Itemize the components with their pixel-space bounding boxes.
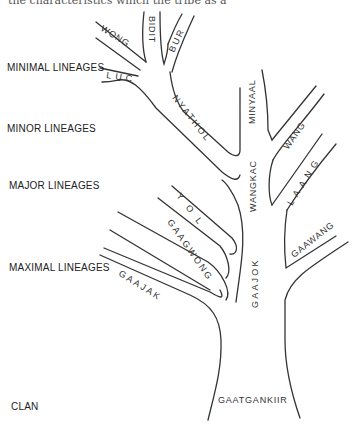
level-label-clan: CLAN — [11, 401, 38, 412]
bidit-right-line — [160, 12, 168, 64]
level-label-maximal: MAXIMAL LINEAGES — [9, 262, 110, 273]
trunk-right-line — [285, 242, 348, 418]
level-label-major: MAJOR LINEAGES — [9, 180, 100, 191]
branch-label-laang: LAANG — [285, 155, 323, 207]
bidit-left-line — [143, 12, 146, 62]
branch-label-wang: WANG — [281, 120, 307, 151]
trunk-left-line — [100, 255, 221, 420]
wangkac-right-line — [269, 160, 273, 205]
branch-label-gaajok: GAAJOK — [250, 258, 260, 308]
level-label-minor: MINOR LINEAGES — [7, 123, 96, 134]
minyaal-right-line — [262, 70, 272, 140]
branch-label-gaatgankiir: GAATGANKIIR — [218, 395, 288, 405]
branch-label-nyathol: NYATHOL — [170, 93, 213, 144]
level-label-minimal: MINIMAL LINEAGES — [7, 62, 104, 73]
branch-label-wangkac: WANGKAC — [248, 160, 258, 212]
branch-label-wong: WONG — [99, 23, 132, 49]
lineage-tree-diagram: MINIMAL LINEAGES MINOR LINEAGES MAJOR LI… — [0, 0, 356, 430]
branch-label-minyaal: MINYAAL — [247, 80, 257, 124]
branch-label-bidit: BIDIT — [147, 16, 157, 43]
